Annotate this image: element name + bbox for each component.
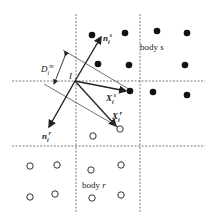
open-particle bbox=[54, 162, 60, 168]
distance-arrow bbox=[54, 56, 65, 84]
x-s-label: Xis bbox=[106, 92, 116, 105]
filled-particle bbox=[150, 89, 157, 96]
open-particle bbox=[88, 167, 94, 173]
filled-particle bbox=[95, 61, 102, 68]
open-particle bbox=[27, 194, 33, 200]
lower-plane-line bbox=[44, 84, 120, 128]
normal-s-arrow bbox=[75, 37, 101, 81]
open-particle bbox=[117, 126, 123, 132]
distance-label: Dim bbox=[41, 63, 54, 76]
x-r-label: Xir bbox=[112, 110, 122, 123]
normal-r-arrow bbox=[49, 81, 75, 127]
open-particle bbox=[118, 162, 124, 168]
normal-s-label: nis bbox=[103, 32, 112, 45]
filled-particle bbox=[122, 30, 129, 37]
filled-particle bbox=[127, 88, 134, 95]
filled-particle bbox=[89, 32, 96, 39]
open-particle bbox=[118, 192, 124, 198]
open-particle bbox=[90, 133, 96, 139]
point-i-label: I bbox=[69, 72, 72, 81]
open-particle bbox=[89, 195, 95, 201]
body-r-label: body r bbox=[82, 181, 106, 190]
normal-r-label: nir bbox=[42, 130, 51, 143]
filled-particle bbox=[154, 28, 161, 35]
open-particle bbox=[27, 163, 33, 169]
open-particle bbox=[52, 191, 58, 197]
filled-particle bbox=[126, 62, 133, 69]
filled-particle bbox=[182, 62, 189, 69]
filled-particle bbox=[184, 30, 191, 37]
contact-diagram: body s body r I nis nir Xis Xir Dim bbox=[0, 0, 213, 223]
filled-particle bbox=[184, 92, 191, 99]
body-s-label: body s bbox=[140, 43, 164, 52]
